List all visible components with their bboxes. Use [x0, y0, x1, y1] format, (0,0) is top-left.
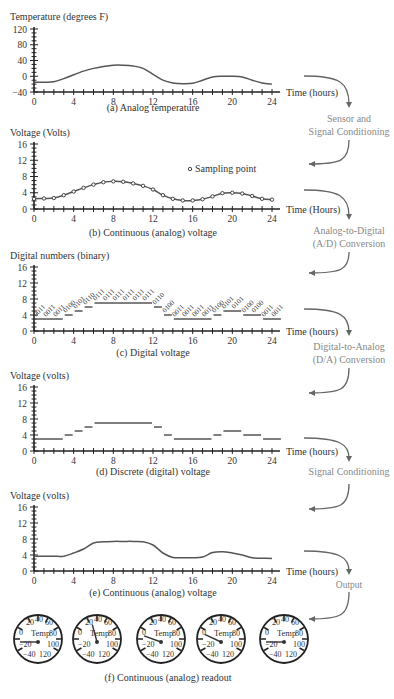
gauge-hub [159, 640, 163, 644]
panel-a: Temperature (degrees F)12080400−40048121… [10, 11, 338, 114]
arrowhead [346, 214, 352, 220]
x-tick-label: 4 [71, 576, 76, 586]
sampling-point-marker [42, 197, 45, 200]
gauge-scale-label: 120 [39, 650, 51, 659]
gauge-scale-label: 0 [19, 628, 23, 637]
sampling-point-marker [171, 197, 174, 200]
gauge-scale-label: −20 [142, 640, 155, 649]
gauge-scale-label: 20 [85, 618, 93, 627]
x-tick-label: 12 [148, 336, 158, 346]
signal-chain-figure: Temperature (degrees F)12080400−40048121… [0, 0, 394, 699]
sampling-point-marker [72, 190, 75, 193]
y-tick-label: 0 [22, 327, 27, 337]
sampling-point-marker [221, 191, 224, 194]
sampling-point-marker [161, 193, 164, 196]
legend-label: Sampling point [195, 163, 257, 174]
y-axis-title: Voltage (volts) [10, 370, 69, 382]
x-tick-label: 20 [228, 97, 238, 107]
gauges-caption: (f) Continuous (analog) readout [105, 672, 232, 684]
gauge-scale-label: 120 [162, 650, 174, 659]
gauge-center-label: Temp [277, 628, 296, 638]
sampling-point-marker [62, 193, 65, 196]
y-tick-label: 0 [22, 72, 27, 82]
gauge-scale-label: 20 [149, 618, 157, 627]
gauge-scale-label: 100 [293, 640, 305, 649]
gauge-scale-label: 120 [222, 650, 234, 659]
y-tick-label: 4 [22, 311, 27, 321]
sampling-point-marker [231, 191, 234, 194]
sampling-point-marker [92, 183, 95, 186]
sampling-point-marker [270, 198, 273, 201]
sampling-point-marker [191, 199, 194, 202]
y-tick-label: 8 [22, 535, 27, 545]
y-tick-label: 12 [18, 519, 28, 529]
gauge-hub [95, 640, 99, 644]
x-tick-label: 16 [188, 336, 198, 346]
panel-c: Digital numbers (binary)1612840048121620… [10, 250, 338, 359]
x-axis-title: Time (hours) [286, 446, 338, 458]
stage-label: Output [336, 580, 363, 590]
gauge-scale-label: 40 [281, 615, 289, 624]
stage-label: Signal Conditioning [309, 126, 390, 137]
gauge-scale-label: 60 [168, 618, 176, 627]
figure-canvas: Temperature (degrees F)12080400−40048121… [0, 0, 394, 699]
x-tick-label: 24 [267, 336, 277, 346]
panel-b: Voltage (Volts)161284004812162024Time (H… [10, 127, 340, 239]
y-tick-label: 4 [22, 551, 27, 561]
gauge-scale-label: 20 [209, 618, 217, 627]
gauge-scale-label: 40 [94, 615, 102, 624]
y-axis-title: Temperature (degrees F) [10, 11, 108, 23]
gauge-hub [282, 640, 286, 644]
sampling-point-marker [211, 195, 214, 198]
gauge-scale-label: −20 [202, 640, 215, 649]
gauge-scale-label: 0 [265, 628, 269, 637]
x-tick-label: 8 [111, 214, 116, 224]
gauge-scale-label: −40 [23, 650, 36, 659]
stage-label: Signal Conditioning [309, 466, 390, 477]
gauge-scale-label: 0 [202, 628, 206, 637]
arrowhead [309, 390, 315, 396]
x-tick-label: 24 [267, 97, 277, 107]
sampling-point-marker [201, 198, 204, 201]
y-tick-label: 16 [18, 383, 28, 393]
y-tick-label: −40 [12, 88, 27, 98]
gauge-scale-label: 100 [106, 640, 118, 649]
gauge-hub [219, 640, 223, 644]
arrowhead [346, 330, 352, 336]
arrowhead [309, 161, 315, 167]
gauge-scale-label: 0 [78, 628, 82, 637]
x-tick-label: 20 [228, 576, 238, 586]
gauge-center-label: Temp [214, 628, 233, 638]
arrowhead [309, 506, 315, 512]
sampling-point-marker [52, 196, 55, 199]
flow-arrow-left [309, 368, 349, 393]
panel-caption: (a) Analog temperature [107, 102, 200, 114]
gauge-scale-label: −40 [146, 650, 159, 659]
gauge-dial: 020406080100−20−40120Temp [197, 615, 245, 663]
x-tick-label: 0 [32, 336, 37, 346]
y-tick-label: 8 [22, 415, 27, 425]
y-tick-label: 12 [18, 156, 28, 166]
x-tick-label: 0 [32, 97, 37, 107]
panel-caption: (e) Continuous (analog) voltage [89, 587, 217, 599]
gauge-scale-label: 40 [35, 615, 43, 624]
panel-caption: (d) Discrete (digital) voltage [96, 466, 211, 478]
sampling-point-marker [131, 182, 134, 185]
binary-label: 0011 [270, 303, 286, 319]
x-tick-label: 20 [228, 214, 238, 224]
legend-marker [188, 167, 191, 170]
sampling-point-marker [112, 180, 115, 183]
y-axis-title: Voltage (Volts) [10, 127, 70, 139]
gauge-scale-label: 120 [285, 650, 297, 659]
y-tick-label: 4 [22, 431, 27, 441]
signal-chain-stages: Sensor andSignal ConditioningAnalog-to-D… [304, 76, 389, 622]
arrowhead [346, 569, 352, 575]
x-tick-label: 4 [71, 336, 76, 346]
x-axis-title: Time (Hours) [286, 204, 340, 216]
gauge-center-label: Temp [31, 628, 50, 638]
x-axis-title: Time (hours) [286, 87, 338, 99]
stage-label: (D/A) Conversion [313, 354, 386, 366]
y-tick-label: 12 [18, 399, 28, 409]
stage-label: Digital-to-Analog [313, 341, 385, 352]
y-tick-label: 0 [22, 205, 27, 215]
